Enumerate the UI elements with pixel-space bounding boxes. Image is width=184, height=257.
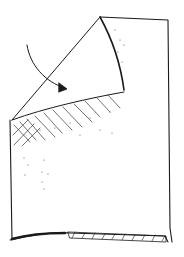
folded-flap (12, 17, 124, 120)
hatching (13, 95, 120, 146)
sheet (10, 17, 172, 242)
fold-arrow-icon (27, 45, 67, 92)
stipple-dots (23, 29, 124, 189)
folded-sheet-illustration (0, 0, 184, 257)
illustration-canvas: Hand-drawn sketch of a square sheet with… (0, 0, 184, 257)
